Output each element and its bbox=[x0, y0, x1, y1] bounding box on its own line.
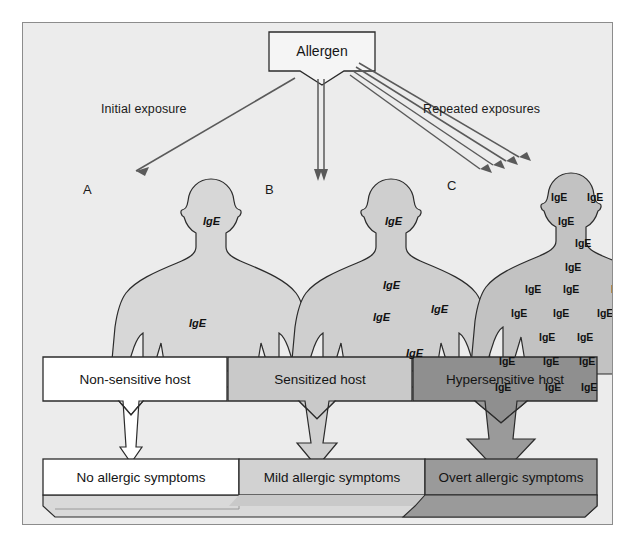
diagram-panel: Allergen Initial exposure Repeated expos… bbox=[22, 22, 613, 525]
ige-label: IgE bbox=[383, 279, 400, 291]
arrow-to-figure-c bbox=[350, 63, 531, 173]
ige-label: IgE bbox=[579, 355, 595, 367]
repeated-exposures-label: Repeated exposures bbox=[423, 102, 540, 116]
ige-label: IgE bbox=[406, 347, 423, 359]
ige-label: IgE bbox=[563, 283, 579, 295]
ige-label: IgE bbox=[565, 261, 581, 273]
diagram-root: Allergen Initial exposure Repeated expos… bbox=[0, 0, 634, 549]
symptom-label-mild: Mild allergic symptoms bbox=[264, 470, 401, 485]
symptom-label-overt: Overt allergic symptoms bbox=[439, 470, 584, 485]
ige-label: IgE bbox=[597, 307, 613, 319]
ige-label: IgE bbox=[203, 215, 220, 227]
ige-label: IgE bbox=[581, 381, 597, 393]
ige-label: IgE bbox=[553, 307, 569, 319]
ige-label: IgE bbox=[499, 355, 515, 367]
ige-label: IgE bbox=[431, 303, 448, 315]
host-label-hypersensitive: Hypersensitive host bbox=[446, 372, 564, 387]
diagram-artwork bbox=[23, 23, 613, 525]
ige-label: IgE bbox=[558, 215, 574, 227]
ige-label: IgE bbox=[539, 331, 555, 343]
figure-letter-b: B bbox=[265, 182, 274, 197]
ige-label: IgE bbox=[511, 307, 527, 319]
ige-label: IgE bbox=[551, 191, 567, 203]
ige-label: IgE bbox=[587, 191, 603, 203]
ige-label: IgE bbox=[385, 215, 402, 227]
ige-label: IgE bbox=[577, 331, 593, 343]
initial-exposure-label: Initial exposure bbox=[101, 102, 187, 116]
ige-label: IgE bbox=[611, 283, 613, 295]
allergen-label: Allergen bbox=[296, 43, 347, 59]
arrow-to-figure-b bbox=[314, 79, 328, 181]
ige-label: IgE bbox=[543, 355, 559, 367]
ige-label: IgE bbox=[189, 317, 206, 329]
host-label-non-sensitive: Non-sensitive host bbox=[79, 372, 190, 387]
ige-label: IgE bbox=[575, 237, 591, 249]
figure-letter-a: A bbox=[83, 182, 92, 197]
figure-letter-c: C bbox=[447, 178, 456, 193]
ige-label: IgE bbox=[373, 311, 390, 323]
symptom-label-none: No allergic symptoms bbox=[76, 470, 205, 485]
ige-label: IgE bbox=[525, 283, 541, 295]
arrow-to-figure-a bbox=[136, 78, 295, 176]
host-box-sensitized-shape bbox=[228, 357, 412, 419]
host-label-sensitized: Sensitized host bbox=[274, 372, 366, 387]
